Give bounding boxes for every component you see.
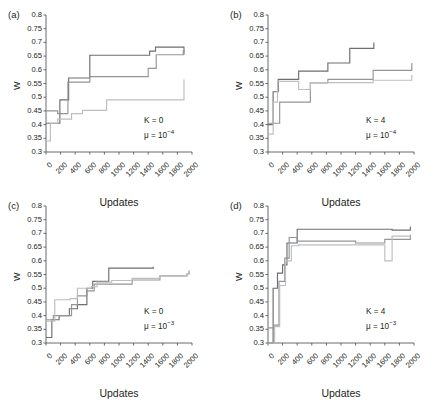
- series-line: [46, 271, 189, 321]
- series-line: [46, 51, 185, 113]
- axis-lines: [268, 206, 414, 343]
- series-line: [46, 267, 153, 338]
- series-line: [268, 63, 412, 123]
- plot-area: [0, 0, 222, 190]
- series-line: [268, 75, 412, 134]
- plot-area: [222, 191, 444, 381]
- x-axis-label: Updates: [46, 387, 192, 399]
- axis-lines: [268, 15, 414, 152]
- x-axis-label: Updates: [268, 387, 414, 399]
- panel-b: (b)0.30.350.40.450.50.550.60.650.70.750.…: [222, 0, 444, 190]
- panel-c: (c)0.30.350.40.450.50.550.60.650.70.750.…: [0, 191, 222, 381]
- series-line: [46, 79, 184, 141]
- plot-area: [0, 191, 222, 381]
- series-line: [46, 47, 184, 123]
- series-line: [46, 270, 189, 319]
- panel-a: (a)0.30.350.40.450.50.550.60.650.70.750.…: [0, 0, 222, 190]
- axis-lines: [46, 206, 192, 343]
- plot-area: [222, 0, 444, 190]
- series-line: [268, 235, 410, 328]
- panel-d: (d)0.30.350.40.450.50.550.60.650.70.750.…: [222, 191, 444, 381]
